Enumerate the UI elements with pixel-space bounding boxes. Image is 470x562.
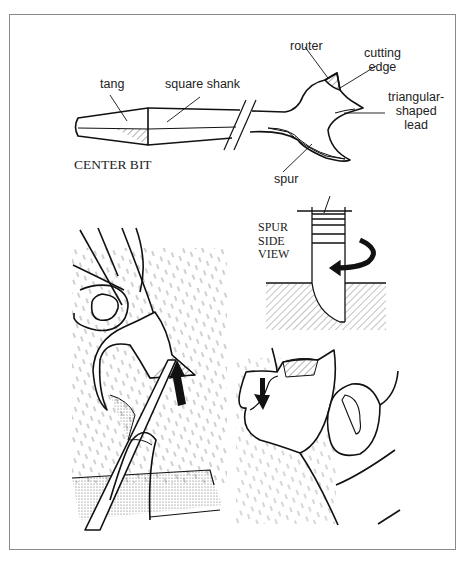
side-view-line3: VIEW [258,248,289,262]
label-lead-line2: shaped [388,104,444,118]
spur-side-view-drawing [266,196,386,330]
label-lead-line3: lead [388,118,444,132]
label-lead-line1: triangular- [388,90,444,104]
label-square-shank: square shank [165,77,240,91]
side-view-line2: SIDE [258,235,289,249]
side-view-line1: SPUR [258,221,289,235]
figure-title: CENTER BIT [74,158,152,172]
label-cutting-edge-line2: edge [364,60,401,74]
side-view-caption: SPUR SIDE VIEW [258,221,289,262]
label-tang: tang [100,77,124,91]
label-router: router [290,39,323,53]
label-triangular-lead: triangular- shaped lead [388,90,444,132]
center-bit-drawing [76,47,386,172]
filing-lead-drawing [236,348,400,525]
label-cutting-edge: cutting edge [364,46,401,74]
label-spur: spur [274,172,298,186]
label-cutting-edge-line1: cutting [364,46,401,60]
filing-spur-drawing [72,228,227,530]
